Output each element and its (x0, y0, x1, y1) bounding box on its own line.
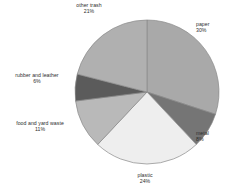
slice-label-metal: metal 8% (196, 130, 236, 143)
slice-label-food-and-yard-waste-name: food and yard waste (16, 120, 64, 126)
pie-chart-figure: other trash 21% paper 30% metal 8% plast… (0, 0, 240, 192)
slice-label-plastic: plastic 24% (118, 172, 172, 185)
slice-label-other-trash-pct: 21% (56, 8, 122, 14)
slice-label-food-and-yard-waste-pct: 11% (2, 126, 78, 132)
slice-label-paper-name: paper (196, 21, 210, 27)
slice-label-paper: paper 30% (196, 21, 236, 34)
slice-label-metal-pct: 8% (196, 136, 236, 142)
slice-label-food-and-yard-waste: food and yard waste 11% (2, 120, 78, 133)
slice-label-paper-pct: 30% (196, 27, 236, 33)
slice-label-other-trash-name: other trash (76, 2, 101, 8)
slice-label-other-trash: other trash 21% (56, 2, 122, 15)
slice-label-metal-name: metal (196, 130, 209, 136)
slice-label-plastic-name: plastic (137, 172, 152, 178)
slice-label-plastic-pct: 24% (118, 178, 172, 184)
slice-label-rubber-and-leather-pct: 6% (2, 78, 72, 84)
slice-label-rubber-and-leather: rubber and leather 6% (2, 72, 72, 85)
slice-label-rubber-and-leather-name: rubber and leather (15, 72, 58, 78)
